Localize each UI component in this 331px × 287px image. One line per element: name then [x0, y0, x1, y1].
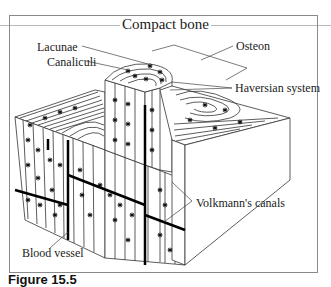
- label-lacunae: Lacunae: [37, 41, 78, 53]
- osteon-leader: [201, 46, 233, 60]
- haversian-leader-1: [172, 82, 232, 88]
- label-blood-vessel: Blood vessel: [22, 247, 84, 259]
- figure-title: Compact bone: [0, 17, 331, 32]
- figure-caption: Figure 15.5: [8, 273, 77, 286]
- label-osteon: Osteon: [236, 40, 270, 52]
- right-block-front-face: [172, 140, 185, 265]
- label-canaliculi: Canaliculi: [47, 56, 96, 68]
- label-volkmanns-canals: Volkmann's canals: [196, 197, 285, 209]
- caption-number: Figure 15.5: [8, 272, 77, 287]
- label-haversian-system: Haversian system: [235, 82, 320, 94]
